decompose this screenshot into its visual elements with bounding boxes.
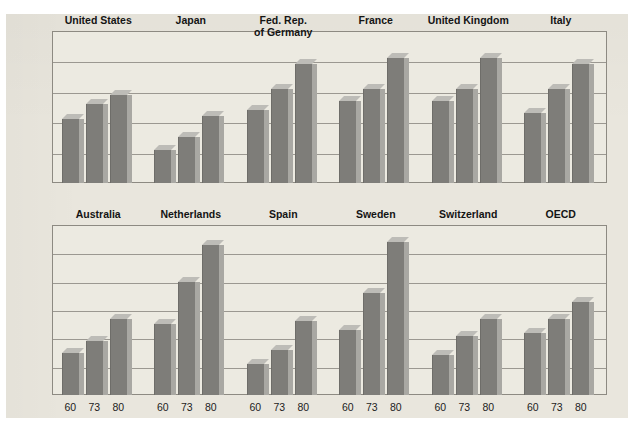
bar-side-face <box>589 64 594 183</box>
x-axis-tick-label: 80 <box>482 401 494 413</box>
bar-front-face <box>178 137 196 183</box>
bar-front-face <box>524 333 542 395</box>
bar <box>387 53 409 183</box>
bar-front-face <box>524 113 542 183</box>
bar-front-face <box>295 321 313 395</box>
bar-front-face <box>572 64 590 183</box>
bar <box>480 314 502 396</box>
bar-side-face <box>79 353 84 396</box>
x-axis-tick-label: 60 <box>249 401 261 413</box>
x-axis-tick-label: 60 <box>434 401 446 413</box>
bar <box>480 53 502 183</box>
bar <box>178 132 200 183</box>
bar-front-face <box>456 89 474 183</box>
bar-side-face <box>219 116 224 183</box>
bar <box>432 96 454 183</box>
bar-front-face <box>62 119 80 183</box>
bar-side-face <box>497 319 502 396</box>
bar-side-face <box>171 150 176 183</box>
bar-side-face <box>541 333 546 395</box>
bar <box>86 336 108 395</box>
gridline <box>53 254 606 255</box>
bar-front-face <box>86 104 104 183</box>
x-axis-tick-label: 60 <box>342 401 354 413</box>
bar <box>271 345 293 395</box>
gridline <box>53 339 606 340</box>
bar-side-face <box>404 58 409 183</box>
bar-side-face <box>565 89 570 183</box>
bar <box>548 314 570 396</box>
bar-side-face <box>449 101 454 183</box>
bar-side-face <box>264 364 269 395</box>
scanned-paper-background: 01020304050%United StatesJapanFed. Rep. … <box>6 14 628 418</box>
bar <box>271 84 293 183</box>
bar-front-face <box>154 324 172 395</box>
bar <box>178 277 200 395</box>
gridline <box>53 93 606 94</box>
bar-side-face <box>497 58 502 183</box>
bar-front-face <box>432 101 450 183</box>
bar-side-face <box>312 64 317 183</box>
bar-front-face <box>110 95 128 183</box>
bar <box>363 288 385 395</box>
bar <box>154 145 176 183</box>
x-axis-tick-label: 60 <box>527 401 539 413</box>
bar-side-face <box>127 95 132 183</box>
bar <box>110 90 132 183</box>
bar-side-face <box>288 89 293 183</box>
x-axis-tick-label: 60 <box>64 401 76 413</box>
bar-front-face <box>432 355 450 395</box>
bar <box>110 314 132 396</box>
bar-side-face <box>356 101 361 183</box>
bar-front-face <box>202 116 220 183</box>
bar <box>387 237 409 395</box>
bar-side-face <box>449 355 454 395</box>
bar-front-face <box>110 319 128 396</box>
bar <box>572 297 594 396</box>
bar-side-face <box>288 350 293 395</box>
x-axis-tick-label: 73 <box>273 401 285 413</box>
bar-side-face <box>473 89 478 183</box>
bar-front-face <box>86 341 104 395</box>
x-axis-tick-label: 80 <box>390 401 402 413</box>
x-axis-tick-label: 80 <box>112 401 124 413</box>
gridline <box>53 123 606 124</box>
bar-side-face <box>127 319 132 396</box>
bar-side-face <box>565 319 570 396</box>
bar-side-face <box>171 324 176 395</box>
bar-front-face <box>271 89 289 183</box>
gridline <box>53 368 606 369</box>
bar-side-face <box>380 89 385 183</box>
bar <box>572 59 594 183</box>
bar-front-face <box>548 89 566 183</box>
bar-front-face <box>339 101 357 183</box>
bar <box>62 114 84 183</box>
bar-front-face <box>480 319 498 396</box>
bar-front-face <box>271 350 289 395</box>
gridline <box>53 283 606 284</box>
x-axis-tick-label: 80 <box>575 401 587 413</box>
bar <box>548 84 570 183</box>
x-axis-tick-label: 60 <box>157 401 169 413</box>
group-label-oecd: OECD <box>501 209 622 221</box>
bar-front-face <box>480 58 498 183</box>
bar <box>62 348 84 396</box>
x-axis-tick-label: 73 <box>551 401 563 413</box>
bar-front-face <box>339 330 357 395</box>
bar-side-face <box>589 302 594 396</box>
bar <box>339 96 361 183</box>
bar-front-face <box>295 64 313 183</box>
bar-side-face <box>312 321 317 395</box>
bar-side-face <box>356 330 361 395</box>
bar <box>339 325 361 395</box>
bar-side-face <box>195 282 200 395</box>
x-axis-tick-label: 80 <box>297 401 309 413</box>
bar <box>202 111 224 183</box>
bar-side-face <box>103 341 108 395</box>
cut-off-caption-text <box>26 4 616 13</box>
bar <box>295 316 317 395</box>
bar-front-face <box>62 353 80 396</box>
bar-front-face <box>247 364 265 395</box>
bar-front-face <box>247 110 265 183</box>
x-axis-tick-label: 73 <box>88 401 100 413</box>
